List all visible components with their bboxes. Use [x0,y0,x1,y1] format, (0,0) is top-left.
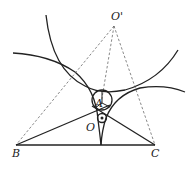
label-a: A [94,97,103,110]
label-b: B [11,147,20,160]
dashed-line-oprime-c [114,26,155,145]
line-b-to-circle [16,105,110,145]
right-arc [101,87,185,145]
label-o: O [86,121,95,134]
label-c: C [151,147,160,160]
label-o-prime: O' [111,10,123,23]
center-dot-o [101,117,104,120]
upper-arc [46,15,178,92]
geometry-diagram: O' A O B C [0,0,194,170]
